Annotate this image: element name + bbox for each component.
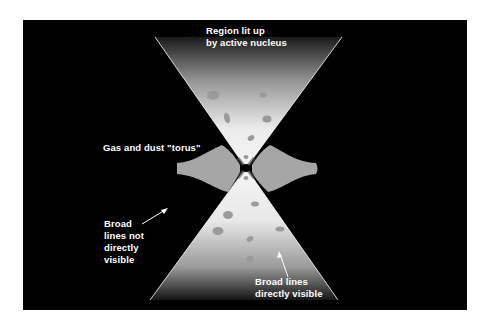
label-region-lit-up: Region lit up by active nucleus: [206, 25, 287, 49]
active-nucleus: [242, 164, 250, 172]
dust-torus-right: [252, 145, 318, 192]
arrow-to-hidden-region: [142, 208, 168, 224]
label-broad-lines-not-visible: Broad lines not directly visible: [104, 218, 144, 266]
label-torus: Gas and dust "torus": [103, 142, 201, 154]
label-broad-lines-visible: Broad lines directly visible: [255, 276, 323, 300]
